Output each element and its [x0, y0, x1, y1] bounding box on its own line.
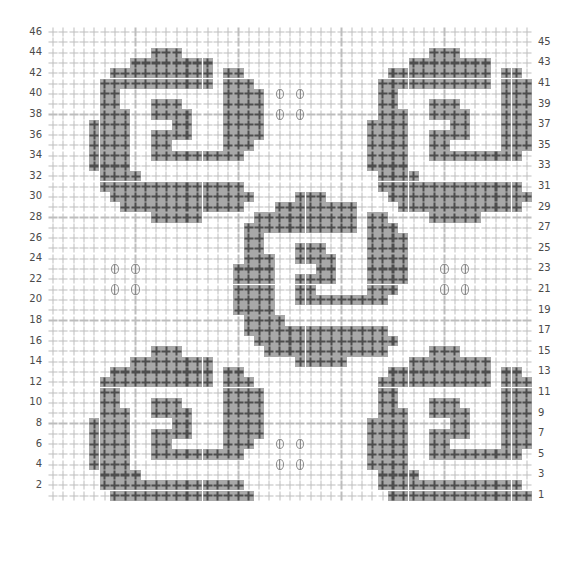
empty-cell[interactable] — [172, 140, 182, 150]
pattern-grid[interactable] — [48, 27, 532, 501]
stitch-cell[interactable] — [316, 223, 326, 233]
empty-cell[interactable] — [460, 264, 470, 274]
empty-cell[interactable] — [512, 295, 522, 305]
stitch-cell[interactable] — [244, 264, 254, 274]
empty-cell[interactable] — [481, 398, 491, 408]
empty-cell[interactable] — [58, 439, 68, 449]
empty-cell[interactable] — [388, 326, 398, 336]
empty-cell[interactable] — [512, 470, 522, 480]
stitch-cell[interactable] — [336, 212, 346, 222]
stitch-cell[interactable] — [388, 182, 398, 192]
empty-cell[interactable] — [470, 27, 480, 37]
empty-cell[interactable] — [233, 336, 243, 346]
empty-cell[interactable] — [120, 357, 130, 367]
empty-cell[interactable] — [501, 336, 511, 346]
empty-cell[interactable] — [357, 439, 367, 449]
empty-cell[interactable] — [223, 264, 233, 274]
stitch-cell[interactable] — [460, 109, 470, 119]
stitch-cell[interactable] — [233, 202, 243, 212]
empty-cell[interactable] — [48, 37, 58, 47]
stitch-cell[interactable] — [192, 480, 202, 490]
empty-cell[interactable] — [316, 491, 326, 501]
empty-cell[interactable] — [316, 58, 326, 68]
empty-cell[interactable] — [347, 89, 357, 99]
empty-cell[interactable] — [203, 470, 213, 480]
stitch-cell[interactable] — [501, 79, 511, 89]
empty-cell[interactable] — [192, 274, 202, 284]
empty-cell[interactable] — [522, 223, 532, 233]
empty-cell[interactable] — [79, 480, 89, 490]
stitch-cell[interactable] — [388, 264, 398, 274]
empty-cell[interactable] — [285, 491, 295, 501]
empty-cell[interactable] — [58, 58, 68, 68]
stitch-cell[interactable] — [429, 140, 439, 150]
stitch-cell[interactable] — [120, 439, 130, 449]
stitch-cell[interactable] — [161, 377, 171, 387]
stitch-cell[interactable] — [306, 243, 316, 253]
empty-cell[interactable] — [460, 89, 470, 99]
empty-cell[interactable] — [254, 346, 264, 356]
stitch-cell[interactable] — [439, 377, 449, 387]
empty-cell[interactable] — [306, 89, 316, 99]
empty-cell[interactable] — [285, 480, 295, 490]
empty-cell[interactable] — [233, 470, 243, 480]
stitch-cell[interactable] — [182, 491, 192, 501]
stitch-cell[interactable] — [388, 120, 398, 130]
stitch-cell[interactable] — [409, 192, 419, 202]
empty-cell[interactable] — [172, 89, 182, 99]
empty-cell[interactable] — [439, 336, 449, 346]
empty-cell[interactable] — [316, 377, 326, 387]
stitch-cell[interactable] — [161, 202, 171, 212]
empty-cell[interactable] — [357, 58, 367, 68]
empty-cell[interactable] — [223, 243, 233, 253]
empty-cell[interactable] — [213, 398, 223, 408]
stitch-cell[interactable] — [470, 182, 480, 192]
empty-cell[interactable] — [161, 89, 171, 99]
empty-cell[interactable] — [69, 223, 79, 233]
empty-cell[interactable] — [264, 480, 274, 490]
empty-cell[interactable] — [48, 439, 58, 449]
stitch-cell[interactable] — [151, 408, 161, 418]
stitch-cell[interactable] — [306, 274, 316, 284]
stitch-cell[interactable] — [120, 429, 130, 439]
empty-cell[interactable] — [48, 398, 58, 408]
empty-cell[interactable] — [336, 233, 346, 243]
empty-cell[interactable] — [481, 264, 491, 274]
empty-cell[interactable] — [130, 27, 140, 37]
empty-cell[interactable] — [89, 377, 99, 387]
stitch-cell[interactable] — [151, 130, 161, 140]
empty-cell[interactable] — [409, 408, 419, 418]
empty-cell[interactable] — [367, 89, 377, 99]
empty-cell[interactable] — [522, 460, 532, 470]
empty-cell[interactable] — [69, 37, 79, 47]
empty-cell[interactable] — [450, 295, 460, 305]
stitch-cell[interactable] — [306, 357, 316, 367]
empty-cell[interactable] — [336, 449, 346, 459]
empty-cell[interactable] — [316, 429, 326, 439]
empty-cell[interactable] — [213, 109, 223, 119]
empty-cell[interactable] — [275, 439, 285, 449]
empty-cell[interactable] — [336, 460, 346, 470]
empty-cell[interactable] — [100, 254, 110, 264]
empty-cell[interactable] — [275, 89, 285, 99]
empty-cell[interactable] — [398, 48, 408, 58]
empty-cell[interactable] — [347, 171, 357, 181]
empty-cell[interactable] — [130, 439, 140, 449]
empty-cell[interactable] — [326, 37, 336, 47]
empty-cell[interactable] — [450, 223, 460, 233]
empty-cell[interactable] — [275, 192, 285, 202]
empty-cell[interactable] — [151, 418, 161, 428]
empty-cell[interactable] — [439, 285, 449, 295]
stitch-cell[interactable] — [347, 202, 357, 212]
empty-cell[interactable] — [275, 171, 285, 181]
stitch-cell[interactable] — [151, 182, 161, 192]
stitch-cell[interactable] — [120, 182, 130, 192]
empty-cell[interactable] — [347, 460, 357, 470]
empty-cell[interactable] — [491, 408, 501, 418]
empty-cell[interactable] — [357, 79, 367, 89]
empty-cell[interactable] — [244, 480, 254, 490]
empty-cell[interactable] — [58, 295, 68, 305]
stitch-cell[interactable] — [439, 367, 449, 377]
empty-cell[interactable] — [69, 161, 79, 171]
stitch-cell[interactable] — [233, 109, 243, 119]
